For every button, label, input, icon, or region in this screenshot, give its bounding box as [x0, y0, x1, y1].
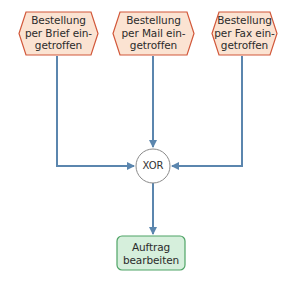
event-fax-shape[interactable]: [212, 12, 277, 55]
edges: [57, 56, 242, 234]
edge-fax-to-xor: [172, 56, 242, 166]
diagram-canvas: [0, 0, 293, 288]
edge-brief-to-xor: [57, 56, 134, 166]
event-mail-shape[interactable]: [113, 12, 194, 55]
xor-connector-shape[interactable]: [136, 149, 170, 183]
event-brief-shape[interactable]: [19, 12, 98, 55]
epc-diagram: Bestellung per Brief ein- getroffen Best…: [0, 0, 293, 288]
function-shape[interactable]: [117, 236, 185, 270]
